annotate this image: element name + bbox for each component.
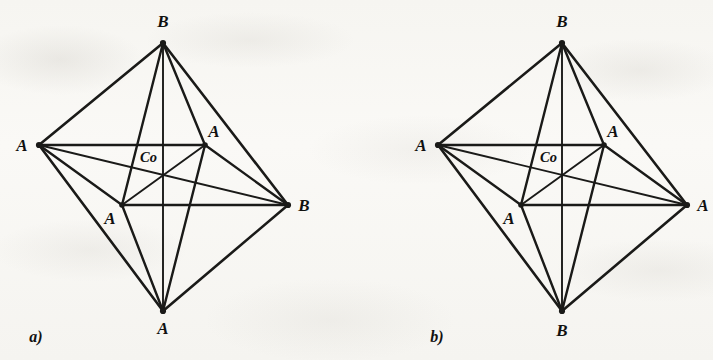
center-atom-label: Co [540, 149, 557, 165]
edge-top-innerupper [562, 43, 604, 145]
caption-b: b) [430, 328, 443, 346]
edge-left-innerlower [438, 145, 521, 205]
vertex-label-left: A [414, 136, 426, 155]
vertex-dot-inner-lower [518, 202, 524, 208]
edge-bottom-innerlower [521, 205, 562, 311]
vertex-label-inner-lower: A [502, 209, 514, 228]
edge-top-right [562, 43, 687, 205]
vertex-label-top: B [555, 12, 567, 31]
vertex-label-bottom: B [555, 321, 567, 340]
vertex-label-right: A [696, 196, 708, 215]
vertex-dot-bottom [559, 308, 565, 314]
edge-right-bottom [562, 205, 687, 311]
figure-root: B A A B A A Co a) [0, 0, 713, 360]
diagram-b-edges [438, 43, 687, 311]
vertex-dot-top [559, 40, 565, 46]
diagram-b: B B A A A A Co b) [0, 0, 713, 360]
vertex-dot-inner-upper [601, 142, 607, 148]
vertex-dot-right [684, 202, 690, 208]
vertex-label-inner-upper: A [606, 122, 618, 141]
edge-top-left [438, 43, 562, 145]
vertex-dot-left [435, 142, 441, 148]
edge-right-innerupper [604, 145, 687, 205]
